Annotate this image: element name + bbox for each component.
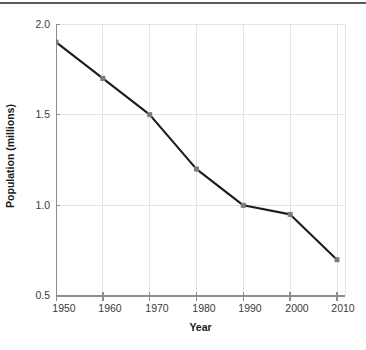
data-point-1950 [56, 40, 59, 45]
data-markers-group [56, 40, 340, 263]
top-divider [0, 2, 366, 4]
data-point-1980 [194, 167, 199, 172]
gridlines-group [56, 24, 345, 296]
chart-svg [56, 24, 356, 309]
y-axis-title-container: Population (millions) [0, 24, 20, 296]
data-point-2000 [288, 212, 293, 217]
data-point-1960 [100, 76, 105, 81]
y-tick-label-2.0: 2.0 [22, 19, 50, 30]
plot-area [56, 24, 345, 296]
data-point-1990 [241, 203, 246, 208]
y-tick-label-1.0: 1.0 [22, 200, 50, 211]
line-chart-figure: Population (millions) 2.0 1.5 1.0 0.5 19… [0, 0, 366, 350]
x-axis-title: Year [56, 321, 345, 333]
y-axis-title: Population (millions) [4, 26, 16, 286]
y-tick-label-0.5: 0.5 [22, 290, 50, 301]
y-tick-label-1.5: 1.5 [22, 109, 50, 120]
data-point-2010 [335, 257, 340, 262]
data-point-1970 [147, 112, 152, 117]
axis-lines-group [56, 24, 345, 296]
